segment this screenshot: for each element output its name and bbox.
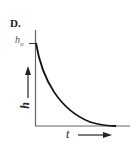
x-arrow-head-icon <box>103 132 112 138</box>
y-arrow-head-icon <box>25 66 31 75</box>
decay-diagram <box>0 0 137 151</box>
decay-curve <box>36 43 116 126</box>
